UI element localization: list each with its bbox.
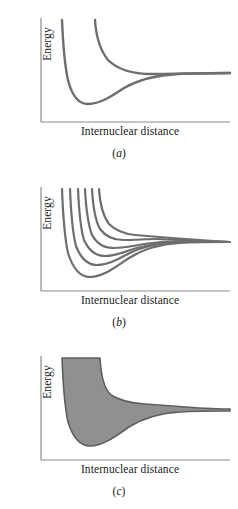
panel-c-x-axis-label: Internuclear distance	[30, 462, 230, 476]
panel-c-caption: (c)	[0, 484, 238, 498]
caption-close-paren: )	[122, 147, 126, 159]
panel-b-caption: (b)	[0, 315, 238, 329]
panel-b-curves	[62, 189, 230, 277]
band-curve-6	[99, 189, 230, 242]
panel-b: Energy Internuclear distance (b)	[0, 169, 238, 338]
panel-a-y-axis-label: Energy	[39, 9, 55, 79]
potential-energy-figure: Energy Internuclear distance (a) Energy …	[0, 0, 238, 509]
panel-c: Energy Internuclear distance (c)	[0, 338, 238, 507]
panel-a-axes	[41, 18, 230, 122]
panel-c-y-axis-label: Energy	[39, 347, 55, 417]
energy-band-region	[62, 358, 230, 446]
panel-a-plot	[0, 0, 238, 169]
panel-b-x-axis-label: Internuclear distance	[30, 293, 230, 307]
band-curve-5	[92, 189, 230, 242]
panel-b-y-axis-label: Energy	[39, 178, 55, 248]
bonding-curve	[62, 20, 230, 104]
band-curve-1	[62, 189, 230, 277]
panel-a-caption: (a)	[0, 146, 238, 160]
panel-a-x-axis-label: Internuclear distance	[30, 124, 230, 138]
caption-close-paren: )	[122, 316, 126, 328]
panel-c-plot	[0, 338, 238, 507]
caption-close-paren: )	[122, 485, 126, 497]
panel-a: Energy Internuclear distance (a)	[0, 0, 238, 169]
panel-b-plot	[0, 169, 238, 338]
panel-a-curves	[62, 20, 230, 104]
antibonding-curve	[95, 20, 230, 74]
